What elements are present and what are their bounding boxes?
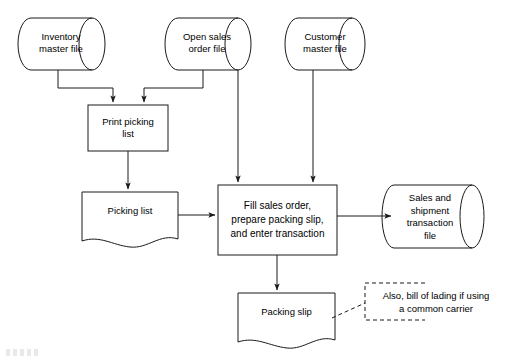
flowchart-canvas: Inventory master file Open sales order f…: [0, 0, 507, 360]
edge-packing-slip-to-annotation: [332, 303, 365, 318]
print-picking-list-shape: [88, 105, 168, 151]
page-corner-artifact: [6, 349, 40, 356]
packing-slip-shape: [238, 293, 335, 348]
customer-master-file-shape: [285, 18, 365, 70]
edge-open-sales-to-print: [144, 70, 203, 102]
annotation-bracket-shape: [365, 283, 425, 320]
sales-shipment-transaction-file-shape: [382, 185, 484, 248]
flowchart-graphics: [0, 0, 507, 360]
inventory-master-file-shape: [18, 18, 105, 70]
fill-sales-order-shape: [218, 185, 337, 255]
picking-list-shape: [82, 192, 178, 247]
open-sales-order-file-shape: [165, 18, 251, 70]
edge-inventory-to-print: [58, 70, 113, 102]
